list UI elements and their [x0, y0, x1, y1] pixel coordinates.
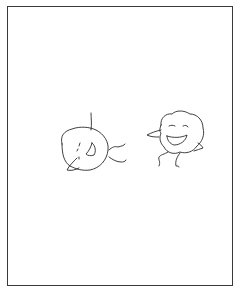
left-mouth [86, 143, 95, 156]
left-eye-1 [79, 143, 80, 146]
left-nose [67, 158, 79, 170]
left-character [61, 113, 126, 170]
right-body-outline [160, 111, 204, 153]
left-leg-upper [109, 144, 125, 150]
right-character [147, 111, 204, 167]
right-mouth [167, 135, 187, 145]
right-eye-left [169, 125, 175, 126]
right-arm-left [147, 130, 161, 137]
left-leg-lower [109, 157, 126, 162]
sketch-canvas [0, 0, 239, 295]
left-eye-2 [77, 149, 78, 151]
right-eye-right [183, 125, 188, 127]
right-leg-right [176, 153, 180, 167]
right-leg-left [159, 152, 168, 166]
left-body-outline [61, 127, 108, 170]
